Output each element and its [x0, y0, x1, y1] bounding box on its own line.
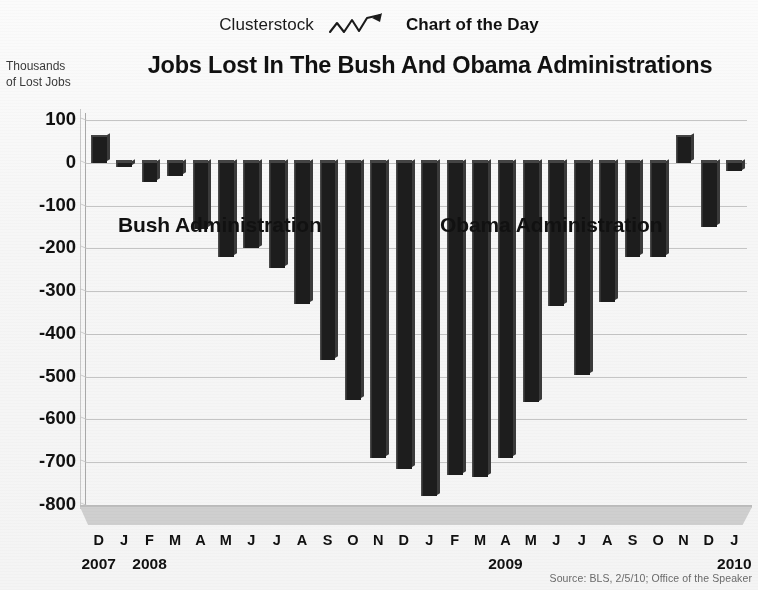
y-axis-tick-label: 0: [2, 151, 76, 173]
gridline: [86, 505, 747, 506]
chart-of-the-day-label: Chart of the Day: [406, 15, 539, 35]
y-axis-tick-label: 100: [2, 108, 76, 130]
x-axis-tick-label: O: [347, 532, 358, 548]
x-axis-tick-label: A: [602, 532, 612, 548]
y-axis-tick-label: -600: [2, 407, 76, 429]
bar: [447, 163, 463, 475]
x-axis-tick-label: A: [297, 532, 307, 548]
bar: [218, 163, 234, 257]
bar: [498, 163, 514, 458]
bar: [523, 163, 539, 403]
x-axis-year-label: 2007: [81, 555, 115, 573]
bar: [726, 163, 742, 172]
y-axis-tick-label: -500: [2, 365, 76, 387]
bar: [625, 163, 641, 257]
x-axis-tick-label: O: [652, 532, 663, 548]
bar-series: [86, 120, 747, 505]
x-axis-tick-label: J: [120, 532, 128, 548]
bar: [142, 163, 158, 182]
x-axis-tick-label: M: [474, 532, 486, 548]
x-axis-tick-label: J: [425, 532, 433, 548]
bar: [116, 163, 132, 167]
y-axis-tick-label: -800: [2, 493, 76, 515]
x-axis-tick-label: J: [273, 532, 281, 548]
bar: [396, 163, 412, 469]
x-axis-tick-label: J: [578, 532, 586, 548]
x-axis-ticks: DJFMAMJJASONDJFMAMJJASONDJ: [86, 532, 747, 554]
x-axis-tick-label: D: [93, 532, 103, 548]
bar: [167, 163, 183, 176]
y-axis-title-line-2: of Lost Jobs: [6, 74, 102, 90]
x-axis-tick-label: M: [169, 532, 181, 548]
source-note: Source: BLS, 2/5/10; Office of the Speak…: [550, 572, 752, 584]
y-axis-title-line-1: Thousands: [6, 58, 102, 74]
y-axis-tick-label: -200: [2, 236, 76, 258]
bar: [574, 163, 590, 375]
x-axis-tick-label: S: [628, 532, 638, 548]
chart-plot-area: 1000-100-200-300-400-500-600-700-800 Bus…: [0, 95, 758, 535]
y-axis-tick-label: -100: [2, 194, 76, 216]
zigzag-trend-up-icon: [328, 12, 392, 38]
x-axis-tick-label: F: [450, 532, 459, 548]
y-axis-tick-label: -300: [2, 279, 76, 301]
obama-administration-label: Obama Administration: [440, 213, 662, 237]
y-axis-title: Thousands of Lost Jobs: [6, 58, 102, 90]
x-axis-year-label: 2010: [717, 555, 751, 573]
bar: [472, 163, 488, 477]
x-axis-tick-label: F: [145, 532, 154, 548]
brand-name: Clusterstock: [219, 15, 314, 35]
bar: [320, 163, 336, 360]
y-axis-tick-label: -400: [2, 322, 76, 344]
x-axis-tick-label: N: [678, 532, 688, 548]
x-axis-tick-label: J: [247, 532, 255, 548]
bar: [676, 137, 692, 163]
x-axis-tick-label: J: [552, 532, 560, 548]
x-axis-year-label: 2008: [132, 555, 166, 573]
x-axis-tick-label: J: [730, 532, 738, 548]
x-axis-year-label: 2009: [488, 555, 522, 573]
bar: [370, 163, 386, 458]
bar: [421, 163, 437, 497]
x-axis-tick-label: N: [373, 532, 383, 548]
y-axis-back-line: [80, 109, 81, 509]
masthead: Clusterstock Chart of the Day: [0, 8, 758, 42]
bar: [91, 137, 107, 163]
x-axis-tick-label: D: [399, 532, 409, 548]
bush-administration-label: Bush Administration: [118, 213, 322, 237]
bar: [701, 163, 717, 227]
bar: [650, 163, 666, 257]
x-axis-tick-label: A: [500, 532, 510, 548]
x-axis-tick-label: S: [323, 532, 333, 548]
bar: [345, 163, 361, 400]
x-axis-tick-label: D: [704, 532, 714, 548]
y-axis-tick-label: -700: [2, 450, 76, 472]
x-axis-tick-label: M: [220, 532, 232, 548]
x-axis-tick-label: A: [195, 532, 205, 548]
plot-inner: 1000-100-200-300-400-500-600-700-800: [86, 120, 747, 505]
x-axis-tick-label: M: [525, 532, 537, 548]
chart-floor-slab: [80, 507, 752, 525]
page-title: Jobs Lost In The Bush And Obama Administ…: [110, 52, 750, 79]
